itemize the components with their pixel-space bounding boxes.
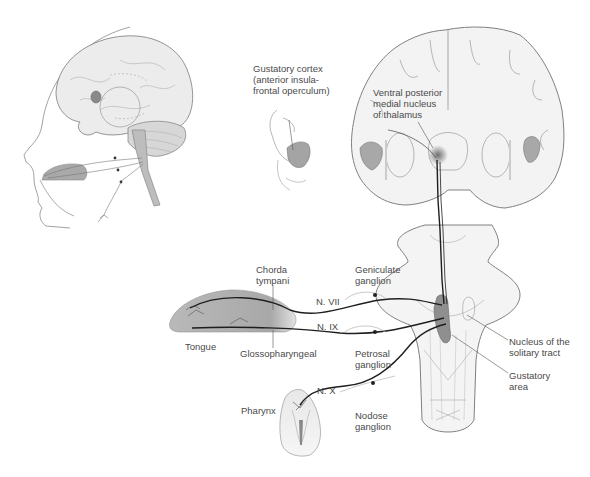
brain-lateral bbox=[56, 36, 193, 135]
insula-cortex bbox=[287, 142, 310, 168]
vagus-branch bbox=[98, 182, 121, 222]
pharynx-panel bbox=[280, 389, 321, 456]
label-geniculate-ganglion: Geniculate ganglion bbox=[355, 264, 400, 286]
geniculate-ganglion-dot bbox=[373, 293, 377, 297]
tongue-lateral bbox=[42, 164, 87, 180]
label-tongue: Tongue bbox=[185, 341, 216, 352]
insula-inset-panel bbox=[270, 110, 310, 190]
label-n-vii: N. VII bbox=[316, 296, 340, 307]
label-pharynx: Pharynx bbox=[241, 405, 276, 416]
lateral-head-panel bbox=[24, 27, 193, 228]
label-glossopharyngeal: Glossopharyngeal bbox=[240, 348, 317, 359]
label-vpm-thalamus: Ventral posterior medial nucleus of thal… bbox=[373, 87, 442, 120]
vpm-thalamus-glow bbox=[428, 145, 448, 165]
petrosal-ganglion-dot bbox=[373, 330, 377, 334]
label-n-x: N. X bbox=[317, 385, 335, 396]
label-gustatory-area: Gustatory area bbox=[509, 370, 550, 392]
label-gustatory-cortex: Gustatory cortex (anterior insula- front… bbox=[253, 63, 330, 96]
label-nucleus-solitary-tract: Nucleus of the solitary tract bbox=[509, 336, 570, 358]
tongue-panel bbox=[169, 290, 295, 332]
nodose-ganglion-dot bbox=[371, 381, 375, 385]
label-chorda-tympani: Chorda tympani bbox=[256, 264, 289, 286]
gustatory-cortex-lateral bbox=[91, 91, 101, 103]
tongue-shape bbox=[169, 290, 295, 332]
label-n-ix: N. IX bbox=[317, 321, 338, 332]
label-nodose-ganglion: Nodose ganglion bbox=[355, 410, 391, 432]
label-petrosal-ganglion: Petrosal ganglion bbox=[355, 348, 391, 370]
jaw-outline bbox=[40, 180, 74, 216]
